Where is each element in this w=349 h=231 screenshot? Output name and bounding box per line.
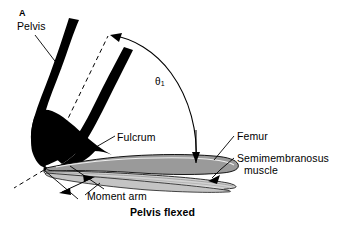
leader-line-pelvis bbox=[35, 35, 61, 69]
label-fulcrum: Fulcrum bbox=[117, 131, 156, 143]
label-semimembranosus-muscle: Semimembranosusmuscle bbox=[237, 152, 329, 176]
dashed-lower-axis bbox=[14, 170, 44, 188]
theta-subscript: 1 bbox=[161, 80, 165, 87]
label-moment-arm: Moment arm bbox=[87, 190, 147, 202]
leader-line-femur bbox=[214, 136, 234, 160]
label-theta-angle: θ1 bbox=[155, 76, 165, 90]
anatomical-figure-panel-a: A Pelvis θ1 Fulcrum Femur Semimembranosu… bbox=[0, 0, 349, 231]
figure-drawing-canvas bbox=[0, 0, 349, 231]
label-pelvis: Pelvis bbox=[17, 20, 46, 32]
semimembranosus-line-1: Semimembranosus bbox=[237, 152, 329, 164]
figure-caption: Pelvis flexed bbox=[130, 206, 195, 218]
moment-arm-arrowhead-left bbox=[59, 188, 71, 195]
panel-letter: A bbox=[19, 7, 26, 19]
angle-arc-arrowhead bbox=[110, 33, 122, 42]
semimembranosus-line-2: muscle bbox=[244, 164, 329, 176]
fulcrum-point bbox=[43, 167, 46, 170]
label-femur: Femur bbox=[237, 130, 268, 142]
